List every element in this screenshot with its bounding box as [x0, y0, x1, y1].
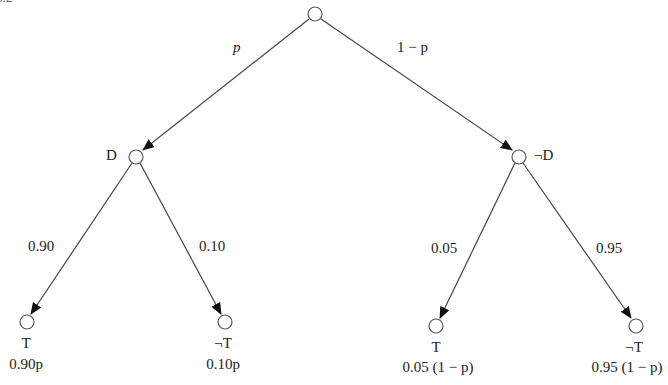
leaf-joint-notT-2: 0.95 (1 − p) — [592, 360, 663, 375]
branch-prob-notD-T: 0.05 — [431, 241, 457, 256]
leaf-node-notT-1 — [218, 315, 232, 329]
figure-label: 5.2 — [0, 0, 12, 4]
branch-prob-notD-notT: 0.95 — [596, 241, 622, 256]
edge-root-D — [143, 19, 309, 150]
leaf-label-T-1: T — [21, 336, 30, 351]
leaf-node-T-1 — [20, 315, 34, 329]
root-node — [308, 7, 322, 21]
leaf-label-notT-2: ¬T — [625, 340, 643, 355]
branch-prob-D: p — [233, 40, 241, 55]
node-notD — [512, 150, 526, 164]
leaf-joint-notT-1: 0.10p — [206, 357, 240, 372]
leaf-joint-T-1: 0.90p — [9, 357, 43, 372]
leaf-node-notT-2 — [629, 319, 643, 333]
branch-prob-D-notT: 0.10 — [199, 239, 225, 254]
node-label-notD: ¬D — [534, 148, 553, 163]
leaf-node-T-2 — [429, 319, 443, 333]
probability-tree-diagram — [0, 0, 668, 385]
leaf-label-notT-1: ¬T — [214, 336, 232, 351]
leaf-label-T-2: T — [431, 340, 440, 355]
branch-prob-notD: 1 − p — [397, 40, 428, 55]
node-D — [129, 150, 143, 164]
node-label-D: D — [106, 148, 117, 163]
leaf-joint-T-2: 0.05 (1 − p) — [403, 360, 474, 375]
branch-prob-D-T: 0.90 — [28, 239, 54, 254]
